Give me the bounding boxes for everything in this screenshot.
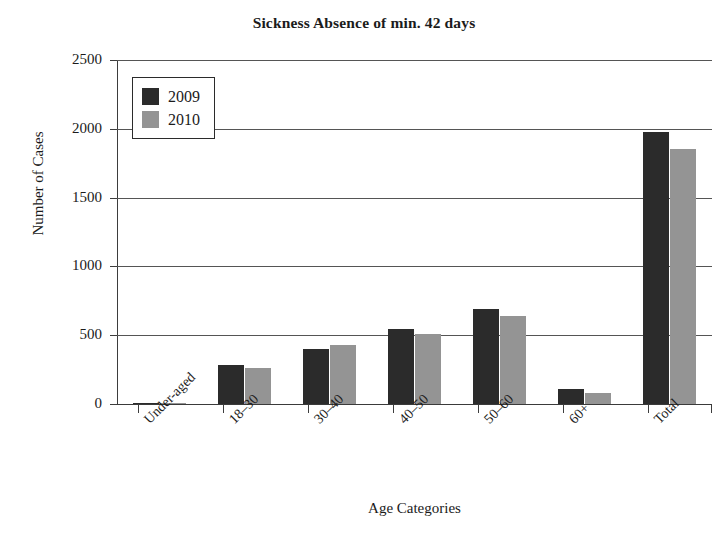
- legend-item: 2009: [142, 85, 200, 108]
- x-axis-tick: [138, 405, 139, 413]
- y-axis-tick-label: 0: [40, 396, 102, 411]
- y-axis-tick-label: 1000: [40, 258, 102, 273]
- bar: [585, 393, 611, 404]
- y-axis-tick-label: 500: [40, 327, 102, 342]
- y-axis-tick-label: 1500: [40, 190, 102, 205]
- bar: [218, 365, 244, 404]
- x-axis-tick: [478, 405, 479, 413]
- chart-title: Sickness Absence of min. 42 days: [0, 14, 728, 32]
- bar: [303, 349, 329, 404]
- x-axis-title: Age Categories: [117, 500, 712, 517]
- x-axis-tick: [223, 405, 224, 413]
- x-axis-tick: [711, 405, 712, 413]
- legend-label: 2010: [168, 112, 200, 128]
- bar: [500, 316, 526, 404]
- legend-swatch-icon: [142, 111, 159, 128]
- legend: 20092010: [132, 77, 215, 139]
- bar: [643, 132, 669, 404]
- gridline: [117, 266, 712, 267]
- bar: [670, 149, 696, 404]
- chart-figure: Sickness Absence of min. 42 days Number …: [0, 0, 728, 542]
- x-axis-tick: [393, 405, 394, 413]
- bar: [388, 329, 414, 404]
- x-axis-tick: [648, 405, 649, 413]
- y-axis-tick-label: 2000: [40, 121, 102, 136]
- gridline: [117, 198, 712, 199]
- y-axis-tick-label: 2500: [40, 52, 102, 67]
- legend-label: 2009: [168, 89, 200, 105]
- legend-item: 2010: [142, 108, 200, 131]
- bar: [473, 309, 499, 404]
- legend-swatch-icon: [142, 88, 159, 105]
- gridline: [117, 60, 712, 61]
- x-axis-tick: [563, 405, 564, 413]
- x-axis-tick: [308, 405, 309, 413]
